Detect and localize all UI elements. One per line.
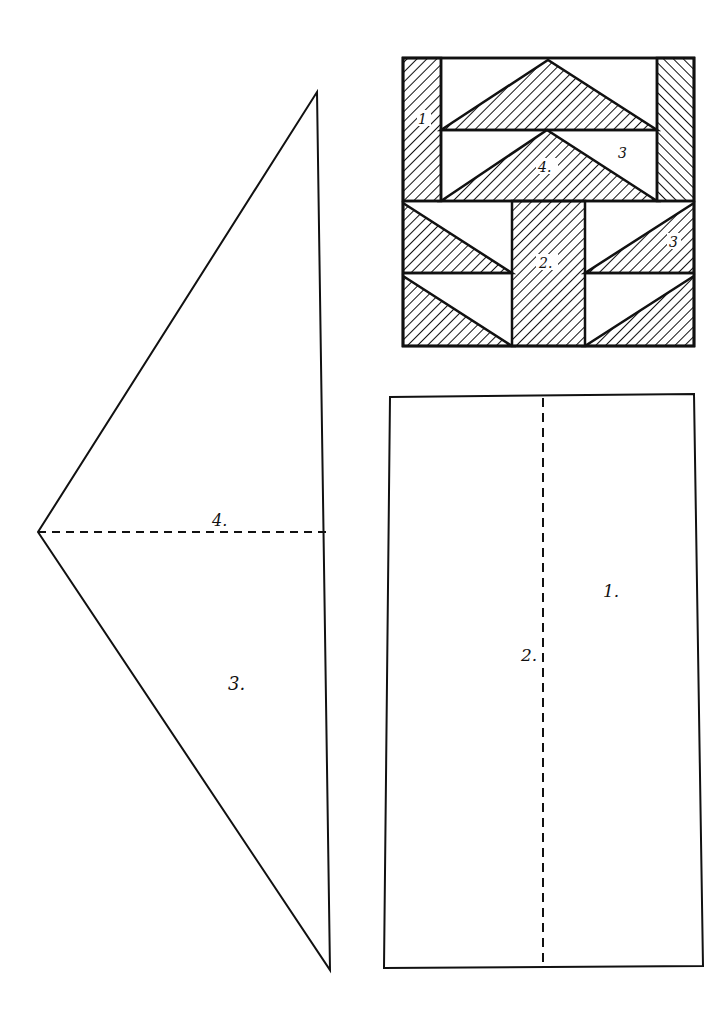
triangle-label-4: 4. [211,511,227,530]
block-left-strip [403,58,441,201]
block-label-2: 2. [538,255,552,271]
block-preview [403,58,694,346]
block-label-4: 4. [537,159,551,175]
block-label-3b: 3 [669,234,678,250]
template-triangle [38,92,330,970]
quilt-pattern-canvas: 1 4. 3 2. 3 4. 3. 1. 2. [0,0,714,1033]
rectangle-label-1: 1. [603,581,619,601]
block-center-stem [512,201,585,346]
rectangle-label-2: 2. [520,645,537,665]
triangle-label-3: 3. [228,673,245,694]
block-label-3a: 3 [618,145,627,161]
block-right-strip [657,58,694,201]
block-label-1: 1 [418,111,427,127]
template-rectangle [384,394,703,968]
